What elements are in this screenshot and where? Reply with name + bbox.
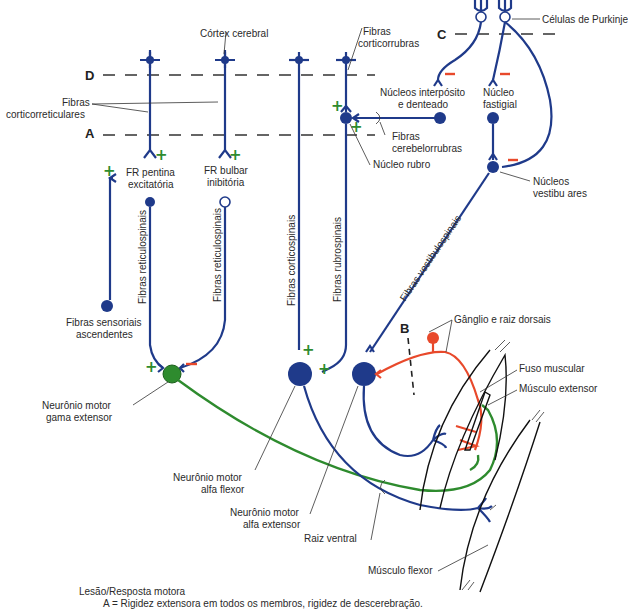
level-b-label: B xyxy=(400,321,409,336)
fuso-pointer xyxy=(480,370,517,392)
cortical-neuron-2 xyxy=(215,50,235,158)
musculo-extensor-pointer xyxy=(488,390,517,405)
corticorreticulares-pointer xyxy=(92,102,218,112)
label-interposito-2: e denteado xyxy=(398,99,448,110)
purkinje-cell-1 xyxy=(434,0,487,86)
label-fr-bulbar-2: inibitória xyxy=(207,177,245,188)
alfa-extensor-pointer xyxy=(310,386,358,514)
pontine-rf-neuron xyxy=(145,197,155,207)
label-fr-pontina-2: excitatória xyxy=(128,179,174,190)
label-reticulospinais-2: Fibras reticulospinais xyxy=(212,208,223,302)
label-fr-pontina-1: FR pentina xyxy=(126,167,175,178)
label-alfa-extensor-2: alfa extensor xyxy=(243,519,301,530)
label-vestibulospinais: Fibras vestibulospinais xyxy=(398,213,464,303)
label-rubro: Núcleo rubro xyxy=(373,159,431,170)
label-ganglio: Gânglio e raiz dorsais xyxy=(454,314,551,325)
sensory-excite-sign: + xyxy=(103,162,116,180)
sensory-neuron-body xyxy=(101,300,113,312)
label-fastigial-2: fastigial xyxy=(483,99,517,110)
alpha-flexor-excite-sign-2: + xyxy=(318,360,331,378)
caption-title: Lesão/Resposta motora xyxy=(79,586,186,597)
gamma-excite-sign: + xyxy=(145,358,158,376)
level-a-label: A xyxy=(85,126,95,141)
vestibular-nuclei xyxy=(487,161,499,173)
pontine-reticulospinal-tract xyxy=(150,207,163,368)
label-sensoriais-2: ascendentes xyxy=(76,329,133,340)
level-d-label: D xyxy=(85,68,94,83)
label-rubrospinais: Fibras rubrospinais xyxy=(332,217,343,302)
label-gama-2: gama extensor xyxy=(46,412,113,423)
bulbar-excite-sign: + xyxy=(229,146,242,164)
caption-line-a: A = Rigidez extensora em todos os membro… xyxy=(103,598,423,609)
level-c-label: C xyxy=(437,27,447,42)
level-b-line xyxy=(408,338,414,395)
label-reticulospinais-1: Fibras reticulospinais xyxy=(137,210,148,304)
vestibular-pointer xyxy=(500,172,530,181)
alpha-flexor-excite-sign-1: + xyxy=(302,341,315,359)
label-alfa-flexor-1: Neurônio motor xyxy=(173,472,243,483)
gama-pointer xyxy=(133,382,168,405)
cerebelorrubras-pointer xyxy=(380,122,385,135)
dorsal-root-ganglion xyxy=(427,332,439,344)
extensor-muscle xyxy=(420,350,506,510)
label-fuso: Fuso muscular xyxy=(519,363,585,374)
label-gama-1: Neurônio motor xyxy=(42,400,112,411)
purkinje-cell-2 xyxy=(489,0,551,167)
rubro-excite-sign-1: + xyxy=(331,97,344,115)
label-fastigial-1: Núcleo xyxy=(483,87,515,98)
alfa-flexor-pointer xyxy=(255,386,295,470)
label-alfa-extensor-1: Neurônio motor xyxy=(230,507,300,518)
alpha-flexor-motor-neuron xyxy=(288,362,312,386)
label-vestibulares-2: vestibu ares xyxy=(533,188,587,199)
raiz-ventral-pointer xyxy=(371,493,380,540)
label-alfa-flexor-2: alfa flexor xyxy=(201,484,245,495)
label-vestibulares-1: Núcleos xyxy=(533,176,569,187)
label-cortex: Córtex cerebral xyxy=(200,28,268,39)
bulbar-rf-neuron xyxy=(220,197,230,207)
label-interposito-1: Núcleos interpósito xyxy=(380,87,465,98)
label-fr-bulbar-1: FR bulbar xyxy=(204,165,249,176)
motor-pathways-diagram: D A C B xyxy=(0,0,628,612)
label-purkinje: Células de Purkinje xyxy=(542,14,628,25)
label-corticorrubras-2: corticorrubras xyxy=(358,38,419,49)
label-sensoriais-1: Fibras sensoriais xyxy=(66,317,142,328)
fastigial-nucleus xyxy=(487,112,499,124)
label-corticospinais: Fibras corticospinais xyxy=(286,215,297,306)
label-corticorrubras-1: Fibras xyxy=(363,26,391,37)
label-corticorreticulares-1: Fibras xyxy=(62,97,90,108)
cortical-neuron-1 xyxy=(140,50,160,158)
corticorrubras-pointer xyxy=(348,28,362,70)
label-cerebelorrubras-2: cerebelorrubras xyxy=(392,143,462,154)
label-cerebelorrubras-1: Fibras xyxy=(392,131,420,142)
label-raiz-ventral: Raiz ventral xyxy=(304,533,357,544)
sensory-afferent-fiber xyxy=(377,352,481,450)
interposito-nucleus xyxy=(434,112,446,124)
alpha-extensor-efferent xyxy=(364,386,433,456)
pontine-excite-sign: + xyxy=(155,146,168,164)
label-musculo-extensor: Músculo extensor xyxy=(519,383,598,394)
sensory-ascending-fiber xyxy=(110,178,113,300)
label-musculo-flexor: Músculo flexor xyxy=(368,565,433,576)
label-corticorreticulares-2: corticorreticulares xyxy=(6,109,85,120)
alpha-extensor-motor-neuron xyxy=(352,362,376,386)
